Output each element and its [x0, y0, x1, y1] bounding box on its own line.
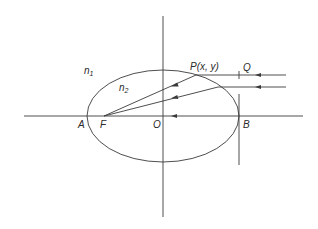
label-point-a: A — [77, 119, 85, 130]
label-point-o: O — [153, 119, 161, 130]
ellipse-refraction-diagram: n1 n2 P(x, y) Q A F O B — [0, 0, 318, 229]
arrowhead-icon — [255, 85, 261, 89]
label-point-q: Q — [243, 62, 251, 73]
label-n1: n1 — [84, 65, 94, 77]
label-n2: n2 — [119, 82, 129, 94]
refracted-ray-1 — [104, 75, 196, 116]
label-point-f: F — [100, 119, 107, 130]
arrowhead-icon — [171, 114, 177, 118]
label-point-p: P(x, y) — [190, 61, 219, 72]
arrowhead-icon — [255, 73, 261, 77]
label-point-b: B — [243, 119, 250, 130]
